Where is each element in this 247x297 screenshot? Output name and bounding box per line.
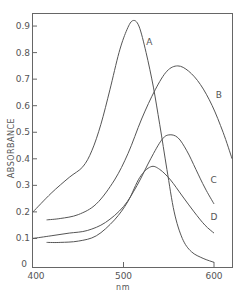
curve-a [33, 20, 214, 262]
spectra-curves [33, 20, 232, 262]
y-tick-label: 0.9 [16, 21, 31, 31]
curve-labels: ABCD [146, 37, 222, 222]
y-tick-label: 0.4 [16, 154, 31, 164]
curve-label-a: A [146, 37, 153, 47]
curve-label-c: C [210, 175, 216, 185]
curve-label-d: D [210, 212, 217, 222]
curve-d [47, 166, 214, 242]
x-tick-label: 400 [27, 271, 44, 281]
y-tick-label: 0.1 [16, 233, 30, 243]
y-tick-label: 0.2 [16, 207, 30, 217]
curve-c [33, 135, 214, 239]
curve-b [47, 66, 233, 220]
y-tick-label: 0.8 [16, 48, 31, 58]
plot-frame [33, 14, 233, 268]
x-axis-ticks: 400500600 [27, 262, 222, 281]
y-axis-ticks: 00.10.20.30.40.50.60.70.80.9 [16, 21, 37, 269]
y-tick-label: 0 [21, 259, 27, 269]
y-axis-label: ABSORBANCE [7, 118, 16, 178]
y-tick-label: 0.3 [16, 180, 30, 190]
y-tick-label: 0.7 [16, 74, 30, 84]
absorbance-chart: 00.10.20.30.40.50.60.70.80.9 400500600 A… [0, 0, 247, 297]
x-axis-label: nm [116, 283, 130, 292]
y-tick-label: 0.6 [16, 101, 31, 111]
x-tick-label: 500 [115, 271, 132, 281]
curve-label-b: B [216, 90, 222, 100]
x-tick-label: 600 [205, 271, 222, 281]
y-tick-label: 0.5 [16, 127, 30, 137]
